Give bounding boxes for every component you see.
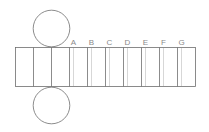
fold-label-f: F [161,38,166,47]
cylinder-net-diagram: ABCDEFG [0,0,209,132]
bottom-circle [33,87,70,124]
fold-label-b: B [89,38,94,47]
fold-label-c: C [107,38,113,47]
fold-label-a: A [71,38,77,47]
fold-label-e: E [143,38,148,47]
panel-dividers [34,48,178,87]
fold-lines [74,49,182,86]
top-circle [33,10,70,47]
fold-labels: ABCDEFG [71,38,185,47]
fold-label-g: G [178,38,184,47]
fold-label-d: D [125,38,131,47]
